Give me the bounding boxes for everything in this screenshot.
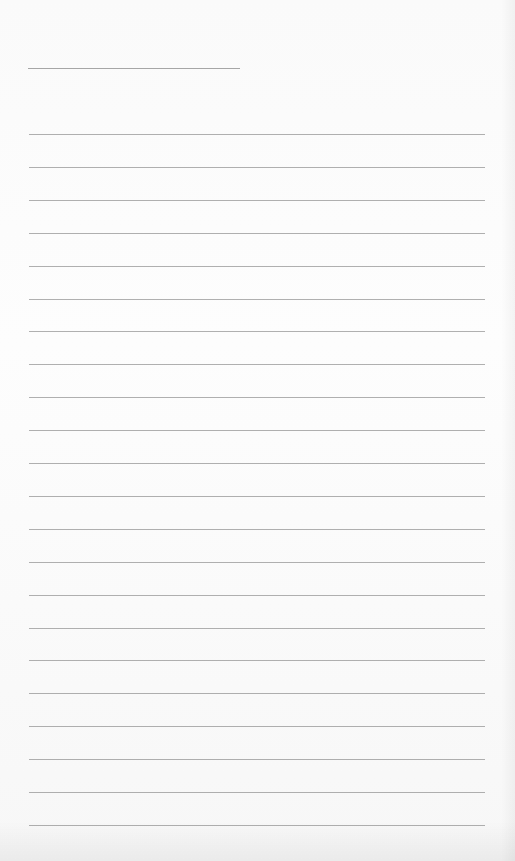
ruled-line bbox=[29, 331, 485, 332]
page-shadow-right bbox=[501, 0, 515, 861]
ruled-line bbox=[29, 660, 485, 661]
ruled-line bbox=[29, 693, 485, 694]
name-line bbox=[28, 68, 240, 69]
ruled-line bbox=[29, 200, 485, 201]
ruled-line bbox=[29, 726, 485, 727]
ruled-line bbox=[29, 364, 485, 365]
ruled-line bbox=[29, 529, 485, 530]
ruled-line bbox=[29, 595, 485, 596]
ruled-line bbox=[29, 397, 485, 398]
ruled-line bbox=[29, 266, 485, 267]
ruled-line bbox=[29, 167, 485, 168]
ruled-line bbox=[29, 463, 485, 464]
ruled-line bbox=[29, 562, 485, 563]
ruled-line bbox=[29, 233, 485, 234]
ruled-line bbox=[29, 792, 485, 793]
ruled-line bbox=[29, 430, 485, 431]
page-shadow-bottom bbox=[0, 821, 515, 861]
lined-paper-page bbox=[0, 0, 515, 861]
ruled-line bbox=[29, 299, 485, 300]
ruled-line bbox=[29, 759, 485, 760]
ruled-line bbox=[29, 496, 485, 497]
ruled-line bbox=[29, 628, 485, 629]
ruled-line bbox=[29, 134, 485, 135]
